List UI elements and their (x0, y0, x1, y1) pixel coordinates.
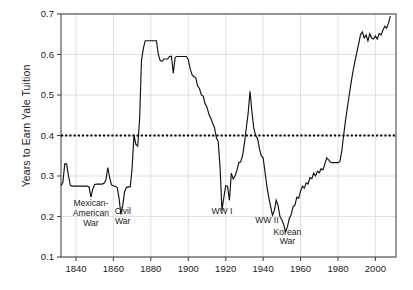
x-axis-tick-labels: 184018601880190019201940196019802000 (65, 263, 386, 274)
y-tick-label: 0.3 (41, 170, 54, 181)
annotation-mexican-american-war: War (83, 218, 99, 228)
chart-figure: Years to Earn Yale Tuition 0.70.60.50.40… (0, 0, 413, 290)
line-chart: 0.70.60.50.40.30.20.1 184018601880190019… (0, 0, 413, 290)
y-tick-label: 0.2 (41, 211, 54, 222)
x-tick-label: 2000 (365, 263, 386, 274)
x-tick-label: 1880 (140, 263, 161, 274)
y-tick-label: 0.1 (41, 251, 54, 262)
annotation-korean-war: Korean (274, 227, 302, 237)
y-tick-label: 0.6 (41, 49, 54, 60)
annotation-civil-war: Civil (115, 206, 131, 216)
annotation-ww-ii: WW II (255, 215, 278, 225)
x-tick-label: 1900 (178, 263, 199, 274)
y-tick-label: 0.5 (41, 89, 54, 100)
annotation-ww-i: WW I (211, 206, 232, 216)
chart-annotations: Mexican-AmericanWarCivilWarWW IWW IIKore… (73, 198, 302, 246)
gridlines (61, 14, 396, 257)
x-tick-label: 1980 (327, 263, 348, 274)
x-tick-label: 1840 (65, 263, 86, 274)
x-tick-label: 1940 (253, 263, 274, 274)
annotation-civil-war: War (115, 216, 131, 226)
x-tick-label: 1920 (215, 263, 236, 274)
y-tick-label: 0.4 (41, 130, 54, 141)
annotation-mexican-american-war: American (73, 208, 110, 218)
annotation-mexican-american-war: Mexican- (74, 198, 109, 208)
y-tick-label: 0.7 (41, 8, 54, 19)
y-axis-tick-labels: 0.70.60.50.40.30.20.1 (41, 8, 54, 262)
x-tick-label: 1860 (103, 263, 124, 274)
annotation-korean-war: War (280, 236, 296, 246)
x-tick-label: 1960 (290, 263, 311, 274)
